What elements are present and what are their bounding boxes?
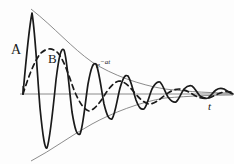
lower-envelope-curve [31, 95, 233, 161]
curve-a-label: A [11, 43, 21, 57]
curve-b-label: B [48, 52, 57, 65]
envelope-exponent-text: −at [100, 58, 110, 66]
curve-a-solid [23, 13, 233, 148]
envelope-label: e−at [96, 59, 110, 70]
t-axis-label: t [208, 101, 211, 112]
damped-oscillation-figure: A B e−at t [0, 0, 234, 164]
plot-area [0, 0, 234, 164]
